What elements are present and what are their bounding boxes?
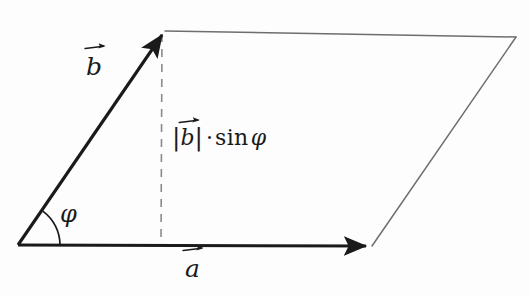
vector-a-letter: a — [185, 254, 200, 283]
height-angle-phi: φ — [251, 125, 266, 150]
parallelogram-top-edge — [165, 31, 516, 37]
vector-b-glyph: b — [86, 54, 102, 79]
height-dashed-line — [161, 34, 162, 244]
vector-a-label: a — [185, 256, 200, 281]
vector-a-arrow — [18, 245, 366, 246]
vector-a-glyph: a — [185, 256, 200, 281]
parallelogram-right-edge — [372, 37, 516, 246]
height-expression-label: | b |·sinφ — [172, 124, 266, 149]
vector-b-label: b — [86, 54, 102, 79]
angle-phi-label: φ — [60, 202, 77, 226]
angle-arc — [43, 211, 60, 245]
abs-bar-open: | — [172, 122, 180, 151]
magnitude-vector-b-glyph: b — [180, 127, 194, 149]
multiplication-dot: · — [206, 125, 213, 150]
vector-b-letter: b — [86, 52, 102, 81]
abs-bar-close: | — [195, 122, 203, 151]
sine-function-name: sin — [215, 125, 249, 150]
vector-parallelogram-diagram: b a φ | b |·sinφ — [0, 0, 530, 295]
magnitude-b-letter: b — [180, 125, 194, 150]
